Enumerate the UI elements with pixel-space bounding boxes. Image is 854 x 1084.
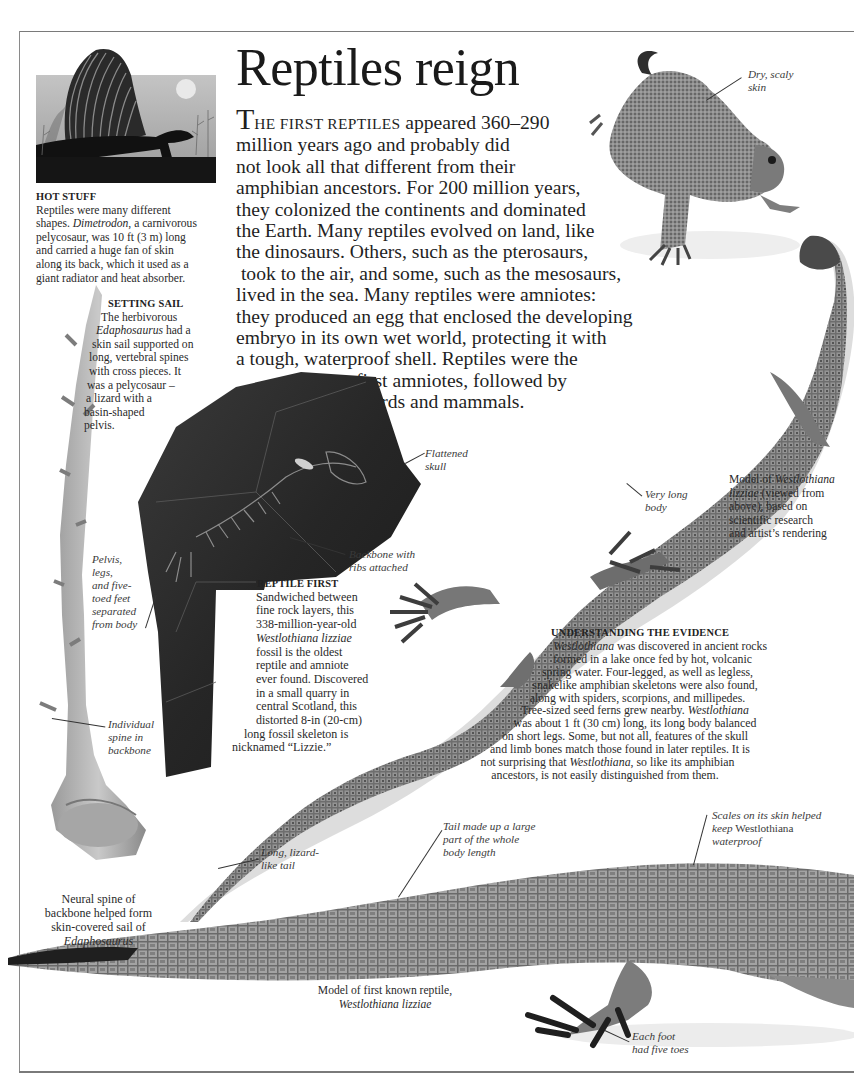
drop-cap: T	[236, 102, 254, 135]
hot-stuff-heading: HOT STUFF	[36, 190, 197, 204]
page-frame-top-rule	[19, 31, 854, 32]
label-individual-spine: Individual spine in backbone	[108, 718, 154, 757]
label-tail-large-part: Tail made up a large part of the whole b…	[443, 820, 535, 859]
label-each-foot: Each foot had five toes	[632, 1030, 689, 1056]
reptile-first-heading: REPTILE FIRST	[232, 577, 368, 591]
page-frame-bottom-rule	[19, 1071, 854, 1073]
dimetrodon-silhouette-image	[36, 45, 216, 185]
label-flattened-skull: Flattened skull	[425, 447, 468, 473]
label-pelvis-legs: Pelvis, legs, and five- toed feet separa…	[92, 553, 137, 631]
model-top-view-caption: Model of Westlothiana lizziae (viewed fr…	[729, 473, 835, 541]
reptile-first-caption: REPTILE FIRST Sandwiched between fine ro…	[232, 577, 368, 755]
label-very-long-body: Very long body	[645, 488, 688, 514]
neural-spine-caption: Neural spine of backbone helped form ski…	[36, 892, 161, 948]
label-long-lizard-tail: Long, lizard- like tail	[261, 846, 319, 872]
page-title: Reptiles reign	[236, 38, 519, 98]
model-side-view-caption: Model of first known reptile, Westlothia…	[300, 984, 470, 1011]
understanding-evidence-caption: UNDERSTANDING THE EVIDENCE Westlothiana …	[470, 627, 800, 782]
label-dry-scaly-skin: Dry, scaly skin	[748, 68, 793, 94]
label-backbone-ribs: Backbone with ribs attached	[349, 548, 415, 574]
label-scales-skin: Scales on its skin helped keep Westlothi…	[712, 809, 821, 848]
